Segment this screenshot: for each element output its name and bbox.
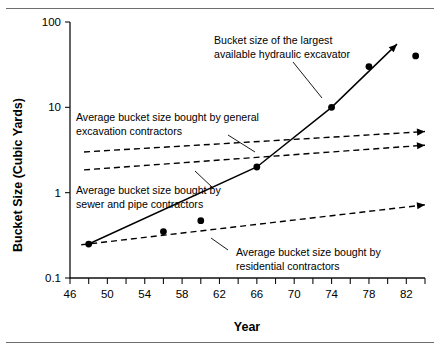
data-point <box>253 164 260 171</box>
data-point <box>328 104 335 111</box>
x-axis-tick-label: 82 <box>400 288 413 300</box>
data-point <box>197 217 204 224</box>
x-axis-tick-label: 74 <box>325 288 338 300</box>
x-axis-tick-label: 78 <box>363 288 376 300</box>
x-axis-tick-label: 50 <box>101 288 114 300</box>
y-axis-title: Bucket Size (Cubic Yards) <box>11 98 25 252</box>
x-axis-tick-label: 58 <box>176 288 189 300</box>
x-axis-tick-label: 66 <box>250 288 263 300</box>
chart-figure: 1001010.146505458626670747882 Bucket siz… <box>0 0 440 350</box>
x-axis-tick-label: 70 <box>288 288 301 300</box>
data-point <box>366 63 373 70</box>
x-axis-title: Year <box>234 320 261 334</box>
x-axis-tick-label: 54 <box>138 288 151 300</box>
data-point <box>85 241 92 248</box>
y-axis-tick-label: 1 <box>55 187 61 199</box>
data-point <box>412 53 419 60</box>
x-axis-tick-label: 62 <box>213 288 226 300</box>
data-point <box>160 228 167 235</box>
y-axis-tick-label: 0.1 <box>45 272 61 284</box>
y-axis-tick-label: 10 <box>48 101 61 113</box>
y-axis-tick-label: 100 <box>42 16 61 28</box>
x-axis-tick-label: 46 <box>64 288 77 300</box>
